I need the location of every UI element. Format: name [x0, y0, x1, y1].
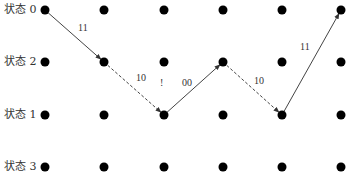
edge-label: 11	[300, 41, 310, 52]
state-node	[219, 6, 228, 15]
state-node	[160, 6, 169, 15]
edge-label: 10	[136, 72, 146, 83]
state-node	[160, 58, 169, 67]
transition-edge	[45, 10, 101, 59]
state-node	[278, 111, 287, 120]
edge-label: 10	[254, 75, 264, 86]
state-node	[219, 58, 228, 67]
state-node	[41, 58, 50, 67]
state-node	[219, 111, 228, 120]
state-node	[100, 58, 109, 67]
state-node	[160, 111, 169, 120]
state-node	[100, 111, 109, 120]
state-node	[219, 163, 228, 172]
state-node	[100, 6, 109, 15]
state-node	[160, 163, 169, 172]
state-node	[41, 6, 50, 15]
state-node	[278, 58, 287, 67]
trellis-diagram: 1110001011!	[0, 0, 348, 181]
transition-edge	[282, 13, 339, 115]
state-node	[337, 163, 346, 172]
transition-edge	[164, 65, 220, 115]
path-edges	[45, 10, 339, 115]
transition-edge	[104, 62, 161, 112]
state-node	[278, 163, 287, 172]
state-node	[41, 111, 50, 120]
edge-labels: 1110001011!	[78, 22, 310, 88]
state-node	[41, 163, 50, 172]
state-node	[337, 6, 346, 15]
state-node	[278, 6, 287, 15]
state-node	[337, 111, 346, 120]
state-node	[337, 58, 346, 67]
edge-label: 11	[78, 22, 88, 33]
tick-marker: !	[160, 77, 163, 88]
state-node	[100, 163, 109, 172]
edge-label: 00	[182, 77, 192, 88]
transition-edge	[223, 62, 279, 112]
